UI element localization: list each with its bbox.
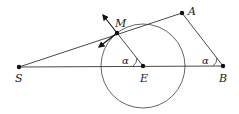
point-E [141, 64, 145, 68]
point-A [180, 11, 184, 15]
diagram-canvas: S M A E B α α [0, 0, 239, 114]
label-A: A [187, 5, 196, 18]
angle-arc-B [213, 58, 217, 66]
line-SB [19, 66, 223, 67]
angle-arc-E [133, 58, 137, 66]
line-EM [117, 33, 143, 66]
point-B [221, 64, 225, 68]
label-B: B [218, 72, 227, 85]
label-E: E [139, 72, 148, 85]
line-SA [19, 13, 182, 67]
label-M: M [114, 17, 127, 30]
alpha-E: α [122, 55, 129, 66]
alpha-B: α [202, 55, 209, 66]
point-S [17, 65, 21, 69]
label-S: S [15, 72, 23, 85]
point-M [115, 31, 119, 35]
